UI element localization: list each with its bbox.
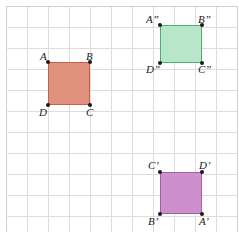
vertex-point-b1 <box>158 212 162 216</box>
grid-line-vertical <box>216 6 217 232</box>
grid-line-horizontal <box>6 27 237 28</box>
single-prime-square <box>160 172 202 214</box>
label-A1: A’ <box>199 216 209 227</box>
grid-line-vertical <box>90 6 91 232</box>
grid-line-vertical <box>48 6 49 232</box>
grid-line-horizontal <box>6 195 237 196</box>
coordinate-grid <box>6 6 237 232</box>
grid-line-vertical <box>237 6 238 232</box>
grid-line-horizontal <box>6 132 237 133</box>
grid-line-horizontal <box>6 153 237 154</box>
grid-line-vertical <box>6 6 7 232</box>
grid-line-horizontal <box>6 48 237 49</box>
label-C2: C” <box>198 64 211 75</box>
label-A: A <box>40 51 47 62</box>
grid-line-vertical <box>132 6 133 232</box>
geometry-figure: ABDCA”B”D”C”C’D’B’A’ <box>0 0 239 232</box>
label-A2: A” <box>146 14 159 25</box>
label-B1: B’ <box>148 216 158 227</box>
grid-line-horizontal <box>6 90 237 91</box>
label-C: C <box>86 107 93 118</box>
label-C1: C’ <box>148 160 159 171</box>
grid-line-vertical <box>69 6 70 232</box>
label-B2: B” <box>198 14 211 25</box>
grid-line-horizontal <box>6 6 237 7</box>
original-square <box>48 62 90 105</box>
grid-line-horizontal <box>6 174 237 175</box>
grid-line-vertical <box>27 6 28 232</box>
double-prime-square <box>160 25 202 63</box>
label-D2: D” <box>146 64 160 75</box>
label-D: D <box>39 107 47 118</box>
grid-line-vertical <box>153 6 154 232</box>
grid-line-vertical <box>111 6 112 232</box>
label-D1: D’ <box>199 160 211 171</box>
label-B: B <box>86 51 93 62</box>
